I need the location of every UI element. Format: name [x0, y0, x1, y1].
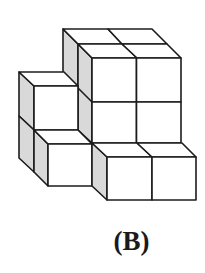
bottom-right-cubes: [92, 143, 196, 200]
left-lower-front-cube: [34, 130, 92, 186]
option-label: (B): [0, 226, 205, 257]
left-upper-cube: [19, 72, 78, 130]
tall-block-front: [92, 58, 181, 143]
